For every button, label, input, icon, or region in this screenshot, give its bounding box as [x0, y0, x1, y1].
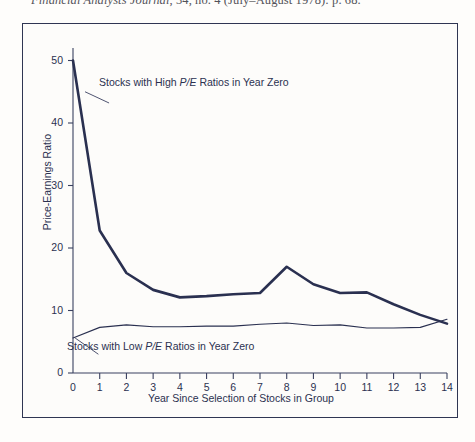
y-tick-label: 0: [39, 366, 63, 378]
series-line-low-pe: [73, 319, 447, 338]
annotation-low-pe: Stocks with Low P/E Ratios in Year Zero: [67, 340, 254, 352]
leader-line-high: [85, 92, 109, 103]
annotation-high-pre: Stocks with High: [99, 76, 180, 88]
figure-frame: Price-Earnings Ratio Year Since Selectio…: [22, 23, 458, 418]
x-tick-label: 12: [384, 381, 404, 393]
axis-group: [68, 48, 447, 379]
x-tick-label: 6: [223, 381, 243, 393]
annotation-high-emphasis: P/E: [180, 76, 197, 88]
x-tick-label: 3: [143, 381, 163, 393]
x-tick-label: 14: [437, 381, 457, 393]
x-axis-title: Year Since Selection of Stocks in Group: [23, 392, 459, 404]
y-tick-label: 20: [39, 241, 63, 253]
source-journal-name: Financial Analysts Journal: [31, 0, 169, 7]
x-tick-label: 8: [277, 381, 297, 393]
plot-area: Price-Earnings Ratio Year Since Selectio…: [23, 24, 459, 419]
x-tick-label: 13: [410, 381, 430, 393]
annotation-high-pe: Stocks with High P/E Ratios in Year Zero: [99, 76, 289, 88]
annotation-leader-lines: [75, 92, 109, 355]
y-tick-label: 30: [39, 179, 63, 191]
source-citation-detail: , 34, no. 4 (July–August 1978): p. 68.: [169, 0, 360, 7]
annotation-high-post: Ratios in Year Zero: [196, 76, 288, 88]
x-tick-label: 11: [357, 381, 377, 393]
annotation-low-post: Ratios in Year Zero: [162, 340, 254, 352]
x-tick-label: 7: [250, 381, 270, 393]
x-tick-label: 0: [63, 381, 83, 393]
x-tick-label: 4: [170, 381, 190, 393]
series-line-high-pe: [73, 61, 447, 324]
x-tick-label: 5: [197, 381, 217, 393]
source-citation: Financial Analysts Journal, 34, no. 4 (J…: [31, 0, 451, 7]
series-group: [73, 61, 447, 339]
x-tick-label: 2: [116, 381, 136, 393]
annotation-low-emphasis: P/E: [145, 340, 162, 352]
x-tick-label: 9: [303, 381, 323, 393]
y-tick-label: 40: [39, 116, 63, 128]
annotation-low-pre: Stocks with Low: [67, 340, 145, 352]
y-tick-label: 10: [39, 304, 63, 316]
x-tick-label: 10: [330, 381, 350, 393]
x-tick-label: 1: [90, 381, 110, 393]
y-tick-label: 50: [39, 54, 63, 66]
